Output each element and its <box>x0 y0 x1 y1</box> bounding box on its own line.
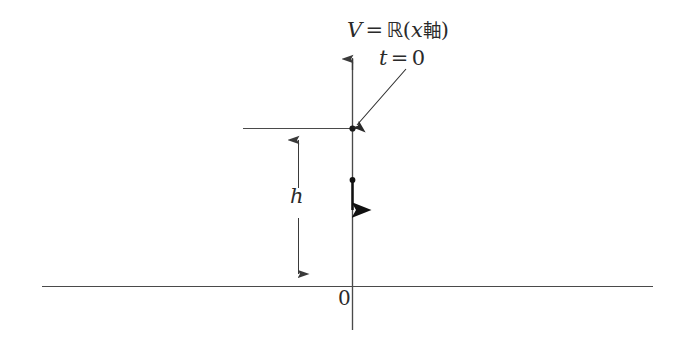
pointer-line-t0 <box>357 69 406 125</box>
time-label-value: 0 <box>412 46 425 70</box>
axis-label-kanji-jiku: 軸 <box>423 20 441 41</box>
axis-label-variable: V <box>347 18 362 42</box>
axis-label-equals: = <box>362 18 386 42</box>
point-t0-marker <box>349 125 355 131</box>
time-label-t0: t=0 <box>379 48 425 69</box>
time-label-equals: = <box>387 46 411 70</box>
height-label-h: h <box>290 186 304 207</box>
axis-label-open-paren: ( <box>403 18 411 42</box>
axis-label-close-paren: ) <box>441 18 449 42</box>
figure-canvas: V=ℝ(x軸) t=0 h 0 <box>0 0 691 362</box>
height-label-variable: h <box>290 184 304 208</box>
axis-label-coordinate: x <box>411 18 423 42</box>
origin-label-0: 0 <box>338 288 351 308</box>
axis-label-set-R: ℝ <box>387 18 403 42</box>
axis-label-V: V=ℝ(x軸) <box>347 20 449 41</box>
origin-label-value: 0 <box>338 286 351 310</box>
